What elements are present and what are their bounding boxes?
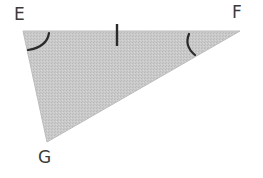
vertex-label-f: F [232, 4, 242, 21]
vertex-label-e: E [14, 6, 25, 23]
triangle-diagram: E F G [0, 0, 263, 178]
vertex-label-g: G [38, 149, 51, 166]
triangle-efg [23, 31, 240, 142]
